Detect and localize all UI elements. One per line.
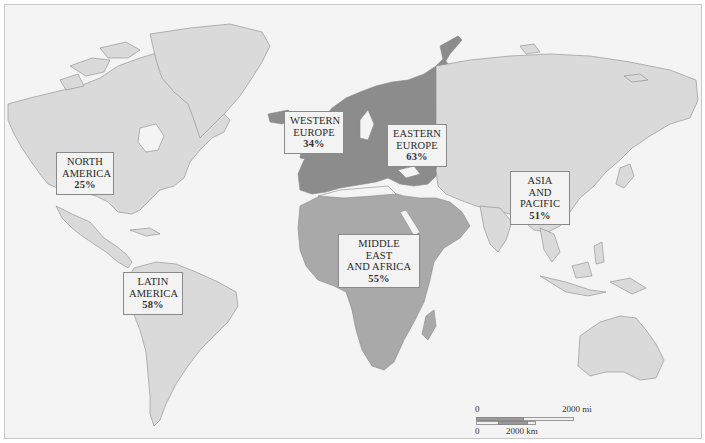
australia-landmass [578,316,664,380]
region-name-line1: MIDDLE EAST [344,238,414,261]
world-map [0,0,705,443]
scale-mi-start: 0 [475,404,480,414]
label-eastern-europe: EASTERN EUROPE 63% [387,124,447,167]
region-name-line1: ASIA AND [516,175,564,198]
label-western-europe: WESTERN EUROPE 34% [284,111,344,154]
label-middle-east-africa: MIDDLE EAST AND AFRICA 55% [338,234,420,288]
region-name-line1: NORTH [62,156,108,168]
scale-bar: 0 2000 mi 0 2000 km [470,400,610,436]
scale-km-start: 0 [475,426,480,436]
region-percentage: 63% [393,151,441,163]
region-name-line2: AMERICA [129,288,177,300]
region-name-line2: AMERICA [62,168,108,180]
region-name-line1: EASTERN [393,128,441,140]
label-north-america: NORTH AMERICA 25% [56,152,114,195]
region-name-line2: AND AFRICA [344,261,414,273]
region-percentage: 58% [129,299,177,311]
region-name-line2: EUROPE [393,140,441,152]
central-america-landmass [56,206,132,268]
scale-km-bar-fill [498,421,528,425]
label-asia-pacific: ASIA AND PACIFIC 51% [510,171,570,225]
scale-mi-end: 2000 mi [562,404,592,414]
region-percentage: 34% [290,138,338,150]
scale-km-end: 2000 km [506,426,538,436]
region-name-line1: LATIN [129,276,177,288]
region-percentage: 55% [344,273,414,285]
region-percentage: 25% [62,179,108,191]
region-percentage: 51% [516,210,564,222]
region-name-line2: EUROPE [290,127,338,139]
label-latin-america: LATIN AMERICA 58% [123,272,183,315]
region-name-line1: WESTERN [290,115,338,127]
region-name-line2: PACIFIC [516,198,564,210]
